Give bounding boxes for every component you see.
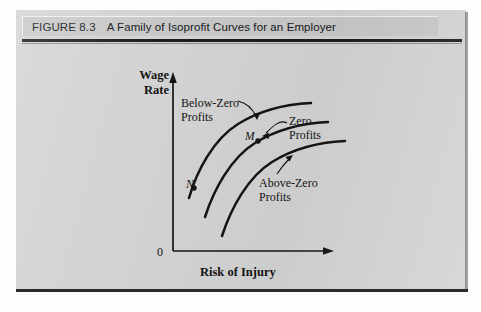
y-axis-label-line1: Wage — [139, 68, 169, 82]
curve-label-zero-profits: Zero Profits — [289, 115, 321, 143]
paper-bottom-rule — [16, 289, 468, 292]
point-n-label: N — [186, 178, 194, 191]
y-axis-label: Wage Rate — [113, 68, 169, 97]
y-axis-arrowhead — [169, 72, 177, 83]
curve-label-below-zero-profits: Below-Zero Profits — [181, 97, 239, 125]
point-m-label: M — [245, 130, 255, 143]
leader-above-zero-profits — [277, 158, 290, 174]
curve-label-above-zero-profits: Above-Zero Profits — [259, 177, 318, 205]
zero-line1: Zero — [289, 114, 312, 128]
above-zero-line2: Profits — [259, 190, 291, 204]
zero-line2: Profits — [289, 128, 321, 142]
y-axis-label-line2: Rate — [144, 83, 169, 97]
paper-right-edge — [465, 12, 468, 292]
origin-label: 0 — [157, 246, 163, 260]
below-zero-line2: Profits — [181, 110, 213, 124]
x-axis-arrowhead — [323, 247, 334, 255]
below-zero-line1: Below-Zero — [181, 96, 239, 110]
figure-page: FIGURE 8.3A Family of Isoprofit Curves f… — [0, 0, 481, 312]
leader-above-zero-arrowhead — [285, 155, 293, 162]
above-zero-line1: Above-Zero — [259, 176, 318, 190]
x-axis-label: Risk of Injury — [200, 265, 276, 280]
point-m-marker — [255, 138, 260, 143]
